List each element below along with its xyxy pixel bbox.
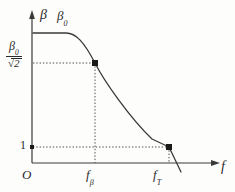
x-tick-f-beta: fβ: [86, 168, 94, 185]
x-tick-f-t-subscript: T: [157, 178, 161, 187]
unity-gain-label: 1: [20, 139, 26, 151]
x-axis: [32, 160, 220, 166]
beta-vs-frequency-plot: [0, 0, 235, 192]
x-tick-f-beta-subscript: β: [90, 178, 94, 187]
x-axis-arrowhead: [211, 160, 220, 166]
tick-marker-unity: [30, 145, 34, 149]
half-power-numerator-base: β: [9, 39, 15, 53]
gain-response-curve: [33, 33, 181, 172]
plateau-label-subscript: 0: [63, 19, 67, 28]
x-tick-f-t: fT: [153, 168, 161, 185]
y-axis-label: β: [40, 8, 47, 22]
plateau-label: β0: [57, 9, 68, 26]
marker-transition-frequency: [166, 144, 172, 150]
half-power-level-label: β0 √2: [6, 40, 22, 69]
figure-canvas: β f β0 β0 √2 1 O fβ fT: [0, 0, 235, 192]
half-power-numerator: β0: [6, 40, 22, 55]
origin-label: O: [22, 168, 31, 181]
x-axis-label: f: [221, 160, 225, 174]
marker-beta-cutoff: [92, 60, 98, 66]
half-power-denominator: √2: [6, 58, 22, 69]
y-axis-arrowhead: [29, 10, 35, 19]
radical-vinculum: [11, 58, 22, 59]
